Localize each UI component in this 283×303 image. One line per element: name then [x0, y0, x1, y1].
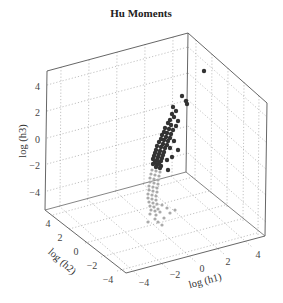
data-point: [165, 206, 168, 209]
data-point: [156, 178, 159, 181]
data-point: [147, 188, 150, 191]
data-point: [148, 176, 151, 179]
data-point: [155, 190, 158, 193]
data-point: [162, 138, 166, 142]
data-point: [158, 170, 161, 173]
data-point: [163, 126, 167, 130]
data-point: [158, 166, 162, 170]
svg-text:4: 4: [46, 218, 51, 229]
data-point: [146, 192, 149, 195]
data-point: [168, 211, 171, 214]
data-point: [158, 210, 161, 213]
data-point: [156, 207, 159, 210]
data-point: [152, 177, 155, 180]
data-point: [176, 119, 180, 123]
series-class-a-points: [151, 69, 206, 172]
data-point: [159, 145, 163, 149]
data-point: [155, 144, 159, 148]
data-point: [146, 196, 149, 199]
data-point: [185, 102, 189, 106]
data-point: [155, 186, 158, 189]
data-point: [149, 208, 152, 211]
data-point: [160, 223, 163, 226]
data-point: [173, 208, 176, 211]
x-axis-label: log (h1): [187, 271, 223, 291]
data-point: [157, 140, 161, 144]
svg-text:2: 2: [226, 256, 231, 267]
data-point: [169, 123, 173, 127]
data-point: [202, 69, 206, 73]
data-point: [153, 209, 156, 212]
data-point: [154, 194, 157, 197]
data-point: [152, 205, 155, 208]
z-axis-ticks: 4 2 0 −2 −4: [29, 81, 40, 198]
hu-moments-3d-scatter: Hu Moments: [0, 0, 283, 303]
data-point: [170, 155, 174, 159]
data-point: [148, 212, 151, 215]
chart-title: Hu Moments: [110, 7, 172, 19]
data-point: [171, 105, 175, 109]
data-point: [156, 182, 159, 185]
data-point: [154, 198, 157, 201]
data-point: [176, 148, 180, 152]
svg-text:2: 2: [58, 232, 63, 243]
data-point: [154, 213, 157, 216]
data-point: [148, 204, 151, 207]
data-point: [150, 197, 153, 200]
svg-text:−4: −4: [103, 274, 114, 285]
data-point: [151, 201, 154, 204]
data-point: [171, 128, 175, 132]
data-point: [146, 220, 149, 223]
data-point: [165, 131, 169, 135]
data-point: [166, 139, 170, 143]
data-point: [154, 165, 158, 169]
svg-text:−2: −2: [87, 260, 98, 271]
data-point: [147, 184, 150, 187]
svg-text:0: 0: [200, 263, 205, 274]
data-point: [160, 133, 164, 137]
data-point: [151, 185, 154, 188]
data-point: [180, 94, 184, 98]
data-point: [152, 181, 155, 184]
svg-text:−2: −2: [170, 269, 181, 280]
data-point: [154, 169, 157, 172]
data-point: [155, 202, 158, 205]
data-point: [153, 217, 156, 220]
data-point: [151, 189, 154, 192]
data-point: [167, 127, 171, 131]
svg-text:−2: −2: [29, 160, 40, 171]
data-point: [153, 173, 156, 176]
data-point: [172, 139, 176, 143]
data-point: [156, 220, 159, 223]
svg-text:0: 0: [74, 246, 79, 257]
data-point: [168, 146, 172, 150]
data-point: [157, 174, 160, 177]
svg-text:4: 4: [35, 81, 40, 92]
data-point: [172, 115, 176, 119]
svg-text:2: 2: [35, 107, 40, 118]
data-point: [165, 158, 169, 162]
data-point: [166, 168, 170, 172]
data-point: [149, 172, 152, 175]
data-point: [160, 203, 163, 206]
data-point: [148, 180, 151, 183]
z-axis-label: log (h3): [17, 124, 29, 158]
data-point: [150, 193, 153, 196]
data-point: [169, 132, 173, 136]
data-point: [174, 109, 178, 113]
svg-text:−4: −4: [139, 277, 150, 288]
data-point: [174, 124, 178, 128]
data-point: [163, 146, 167, 150]
data-point: [162, 216, 165, 219]
svg-text:0: 0: [35, 134, 40, 145]
svg-text:4: 4: [256, 249, 261, 260]
data-point: [150, 168, 153, 171]
svg-text:−4: −4: [29, 187, 40, 198]
data-point: [147, 200, 150, 203]
series-class-b-points: [146, 168, 176, 226]
